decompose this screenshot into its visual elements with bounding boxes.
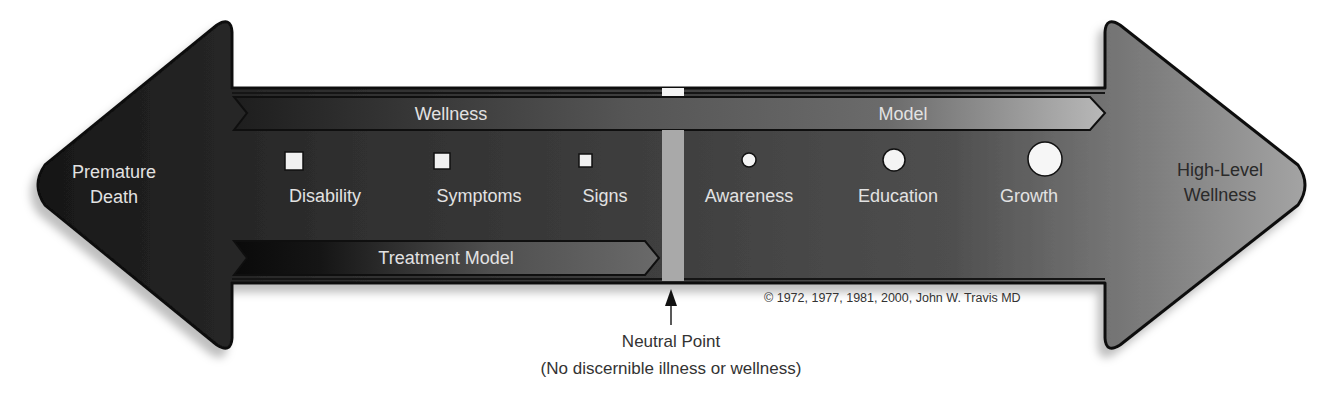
- arrow-up-icon: [665, 289, 677, 306]
- neutral-point-sublabel: (No discernible illness or wellness): [541, 355, 802, 382]
- neutral-point-marker: [662, 88, 684, 96]
- symptoms-marker-icon: [434, 153, 450, 169]
- neutral-point-bar: [662, 130, 684, 281]
- growth-marker-icon: [1028, 142, 1062, 176]
- wellness-band-word2: Model: [878, 104, 927, 125]
- awareness-label: Awareness: [705, 186, 794, 207]
- neutral-point-label: Neutral Point: [622, 328, 720, 355]
- treatment-band-label: Treatment Model: [378, 248, 513, 269]
- right-end-line2: Wellness: [1177, 183, 1263, 208]
- left-end-line1: Premature: [72, 160, 156, 185]
- signs-marker-icon: [579, 154, 592, 167]
- education-marker-icon: [883, 149, 905, 171]
- growth-label: Growth: [1000, 186, 1058, 207]
- symptoms-label: Symptoms: [436, 186, 521, 207]
- right-end-label: High-Level Wellness: [1177, 158, 1263, 208]
- left-end-line2: Death: [72, 185, 156, 210]
- signs-label: Signs: [582, 186, 627, 207]
- wellness-band-word1: Wellness: [415, 104, 488, 125]
- education-label: Education: [858, 186, 938, 207]
- left-end-label: Premature Death: [72, 160, 156, 210]
- disability-label: Disability: [289, 186, 361, 207]
- right-end-line1: High-Level: [1177, 158, 1263, 183]
- wellness-model-band: [234, 97, 1105, 130]
- awareness-marker-icon: [742, 153, 756, 167]
- disability-marker-icon: [285, 152, 303, 170]
- copyright-text: © 1972, 1977, 1981, 2000, John W. Travis…: [764, 291, 1021, 305]
